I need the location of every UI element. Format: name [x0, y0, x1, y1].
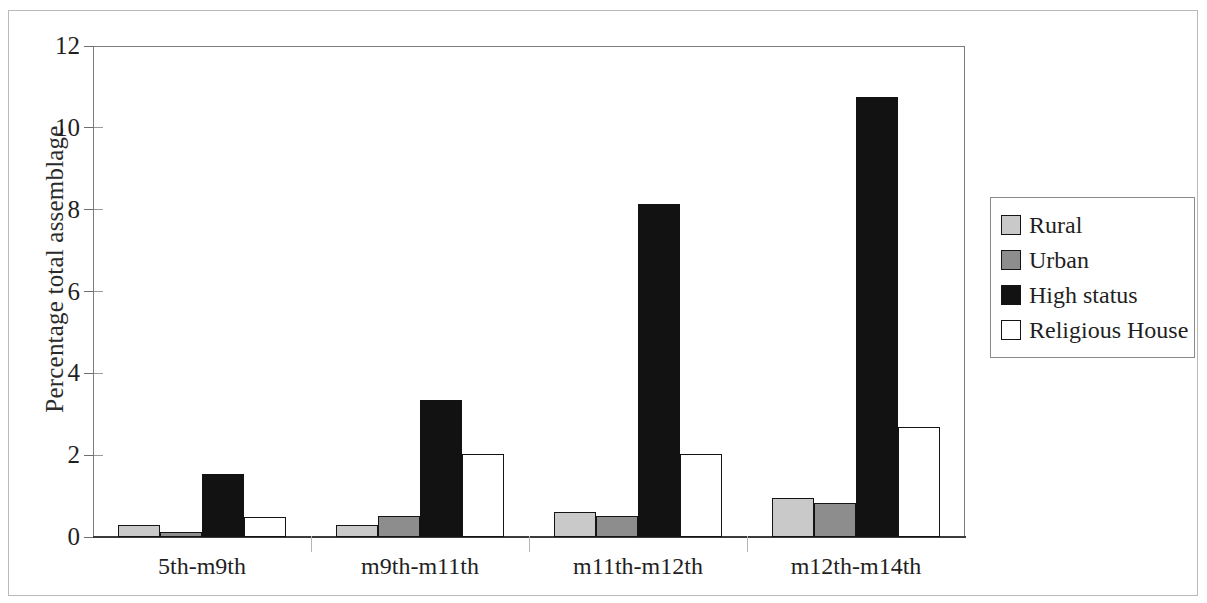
y-axis-tick-labels: 024681012: [30, 0, 80, 603]
legend-swatch-icon: [1001, 250, 1021, 270]
y-axis-tick-inner: [94, 373, 103, 374]
x-axis-category-label: 5th-m9th: [93, 553, 311, 579]
y-axis-tick-label: 6: [34, 279, 80, 304]
legend-item-urban: Urban: [1001, 242, 1186, 277]
y-axis-tick-label: 2: [34, 442, 80, 467]
y-axis-tick-inner: [94, 127, 103, 128]
legend-swatch-icon: [1001, 320, 1021, 340]
category-separator-tick: [747, 536, 748, 552]
y-axis-tick-inner: [94, 209, 103, 210]
legend-item-religious-house: Religious House: [1001, 312, 1186, 347]
y-axis-tick-label: 0: [34, 524, 80, 549]
chart-figure: Percentage total assemblage 024681012 5t…: [0, 0, 1207, 603]
legend-label: High status: [1029, 283, 1138, 307]
plot-area: [93, 46, 965, 537]
legend-swatch-icon: [1001, 215, 1021, 235]
chart-legend: RuralUrbanHigh statusReligious House: [990, 197, 1195, 358]
legend-swatch-icon: [1001, 285, 1021, 305]
category-separator-tick: [311, 536, 312, 552]
legend-item-rural: Rural: [1001, 207, 1186, 242]
y-axis-tick: [84, 291, 94, 292]
y-axis-tick-label: 10: [34, 115, 80, 140]
y-axis-tick: [84, 455, 94, 456]
legend-item-high-status: High status: [1001, 277, 1186, 312]
y-axis-tick: [84, 46, 94, 47]
x-axis-category-label: m12th-m14th: [747, 553, 965, 579]
y-axis-tick-inner: [94, 291, 103, 292]
y-axis-tick-label: 4: [34, 360, 80, 385]
legend-label: Urban: [1029, 248, 1089, 272]
category-separator-tick: [529, 536, 530, 552]
legend-label: Religious House: [1029, 318, 1188, 342]
y-axis-tick: [84, 373, 94, 374]
y-axis-tick-label: 12: [34, 33, 80, 58]
y-axis-tick: [84, 209, 94, 210]
y-axis-tick: [84, 127, 94, 128]
x-axis-category-label: m11th-m12th: [529, 553, 747, 579]
legend-label: Rural: [1029, 213, 1082, 237]
y-axis-tick-label: 8: [34, 197, 80, 222]
x-axis-category-label: m9th-m11th: [311, 553, 529, 579]
y-axis-tick-inner: [94, 455, 103, 456]
